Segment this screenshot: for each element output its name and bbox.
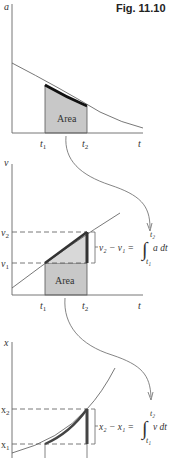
v2-label: v2 — [1, 227, 9, 240]
equation-velocity: v₂ − v₁ = ∫ t₂ t₁ a dt — [99, 230, 168, 266]
arrow-2 — [65, 298, 151, 397]
integrand: a dt — [153, 243, 168, 253]
figure: Fig. 11.10 a Area t1 t2 t — [0, 0, 174, 458]
y-axis-label: a — [4, 1, 9, 12]
panel-position: x x2 x1 x₂ − x₁ = ∫ t₂ t₁ v dt — [1, 337, 167, 458]
bracket — [91, 409, 98, 444]
x2-label: x2 — [1, 404, 10, 417]
highlight-segment — [45, 409, 87, 444]
t1-label: t1 — [40, 138, 47, 151]
t2-label: t2 — [82, 300, 89, 313]
x-axis-label: t — [138, 300, 141, 311]
t1-label: t1 — [40, 300, 47, 313]
integral-lower: t₁ — [146, 257, 151, 266]
t2-label: t2 — [82, 138, 89, 151]
figure-canvas: a Area t1 t2 t — [0, 0, 174, 458]
equation-lhs: v₂ − v₁ = — [99, 243, 134, 253]
panel-acceleration: a Area t1 t2 t — [4, 1, 143, 151]
bracket — [91, 232, 98, 263]
equation-lhs: x₂ − x₁ = — [98, 422, 134, 432]
arrow-1 — [66, 136, 150, 228]
equation-position: x₂ − x₁ = ∫ t₂ t₁ v dt — [98, 409, 167, 445]
integrand: v dt — [153, 422, 167, 432]
integral-lower: t₁ — [146, 436, 151, 445]
area-label: Area — [55, 275, 75, 286]
integral-upper: t₂ — [150, 230, 155, 239]
v1-label: v1 — [1, 258, 9, 271]
x-axis-label: t — [138, 138, 141, 149]
integral-upper: t₂ — [150, 409, 155, 418]
position-curve — [12, 368, 115, 453]
figure-title: Fig. 11.10 — [116, 2, 166, 14]
y-axis-label: v — [4, 157, 9, 168]
area-label: Area — [57, 113, 77, 124]
panel-velocity: v v2 v1 Area t1 t2 t v₂ − v₁ = ∫ t₂ t₁ a… — [1, 157, 168, 313]
x1-label: x1 — [1, 439, 10, 452]
y-axis-label: x — [3, 337, 9, 348]
